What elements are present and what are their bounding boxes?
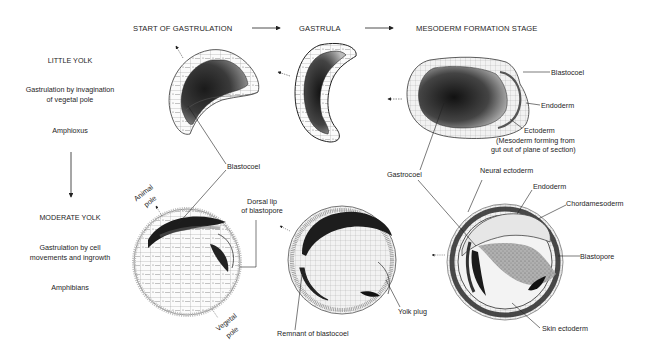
- row1-organism: Amphioxus: [20, 126, 120, 135]
- row1-yolk-label: LITTLE YOLK: [20, 56, 120, 65]
- label-endoderm-top: Endoderm: [541, 101, 574, 110]
- gastrulation-diagram-art: [0, 0, 647, 355]
- label-dorsal-lip-2: of blastopore: [230, 206, 294, 215]
- label-neural-ectoderm: Neural ectoderm: [480, 166, 533, 175]
- row2-mode-line1: Gastrulation by cell: [10, 243, 130, 252]
- row2-mode-line2: movements and ingrowth: [10, 253, 130, 262]
- amphioxus-mesoderm-embryo: [388, 57, 529, 138]
- label-ectoderm-top: Ectoderm: [524, 126, 555, 135]
- label-endoderm-bottom: Endoderm: [533, 182, 566, 191]
- label-mesoderm-note-1: (Mesoderm forming from: [496, 136, 575, 145]
- label-blastopore: Blastopore: [580, 252, 614, 261]
- label-blastocoel: Blastocoel: [227, 162, 260, 171]
- amphibian-start-embryo: [134, 206, 240, 318]
- row2-organism: Amphibians: [20, 283, 120, 292]
- amphibian-mesoderm-embryo: [432, 204, 563, 320]
- label-blastocoel-mesoderm: Blastocoel: [551, 68, 584, 77]
- label-chordamesoderm: Chordamesoderm: [566, 199, 624, 208]
- amphioxus-start-embryo: [169, 46, 259, 134]
- row1-mode-line1: Gastrulation by invagination: [10, 85, 130, 94]
- header-gastrula: GASTRULA: [299, 24, 341, 33]
- row2-yolk-label: MODERATE YOLK: [20, 213, 120, 222]
- label-yolk-plug: Yolk plug: [398, 307, 427, 316]
- label-dorsal-lip-1: Dorsal lip: [232, 197, 292, 206]
- label-mesoderm-note-2: gut out of plane of section): [491, 145, 576, 154]
- amphioxus-gastrula-embryo: [278, 43, 356, 142]
- row1-mode-line2: of vegetal pole: [10, 95, 130, 104]
- label-remnant-of-blastocoel: Remnant of blastocoel: [277, 329, 349, 338]
- header-mesoderm-formation-stage: MESODERM FORMATION STAGE: [416, 24, 538, 33]
- label-gastrocoel: Gastrocoel: [387, 170, 422, 179]
- header-start-of-gastrulation: START OF GASTRULATION: [133, 24, 232, 33]
- label-skin-ectoderm: Skin ectoderm: [542, 324, 588, 333]
- amphibian-gastrula-embryo: [280, 206, 396, 314]
